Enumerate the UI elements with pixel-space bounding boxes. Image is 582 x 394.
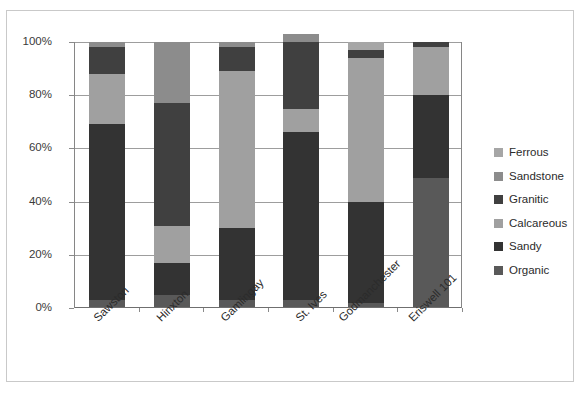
bar-segment-sandstone[interactable]	[219, 42, 255, 47]
y-axis-tick-label: 40%	[6, 196, 52, 208]
bar-slot	[204, 42, 269, 308]
legend-item[interactable]: Sandstone	[494, 165, 580, 189]
stacked-bar[interactable]	[219, 42, 255, 308]
stacked-bar[interactable]	[154, 42, 190, 308]
legend-swatch-icon	[494, 266, 503, 275]
bar-segment-sandstone[interactable]	[154, 42, 190, 103]
bar-segment-sandstone[interactable]	[89, 42, 125, 47]
bar-slot	[75, 42, 140, 308]
bar-segment-sandy[interactable]	[89, 124, 125, 300]
bar-segment-calcareous[interactable]	[89, 74, 125, 125]
y-axis-tick-label: 20%	[6, 249, 52, 261]
bar-slot	[140, 42, 205, 308]
legend-label: Organic	[509, 265, 549, 277]
bar-segment-calcareous[interactable]	[348, 58, 384, 202]
bar-segment-granitic[interactable]	[154, 103, 190, 225]
bar-slot	[398, 42, 463, 308]
legend-item[interactable]: Calcareous	[494, 212, 580, 236]
plot-area	[74, 42, 462, 308]
y-axis-tick-label: 100%	[6, 36, 52, 48]
chart-frame: 0%20%40%60%80%100% SawstonHinxtonGamling…	[6, 10, 574, 382]
legend-label: Sandy	[509, 241, 542, 253]
legend-item[interactable]: Organic	[494, 259, 580, 283]
x-axis-tick-mark	[203, 308, 204, 312]
legend-swatch-icon	[494, 242, 503, 251]
legend-swatch-icon	[494, 219, 503, 228]
legend-swatch-icon	[494, 172, 503, 181]
stacked-bar[interactable]	[89, 42, 125, 308]
bar-segment-granitic[interactable]	[89, 47, 125, 74]
bar-segment-granitic[interactable]	[283, 42, 319, 109]
bar-segment-ferrous[interactable]	[348, 42, 384, 50]
x-axis-tick-mark	[268, 308, 269, 312]
y-axis-tick-mark	[69, 308, 74, 309]
legend-label: Granitic	[509, 194, 549, 206]
legend-swatch-icon	[494, 195, 503, 204]
bar-slot	[269, 42, 334, 308]
stacked-bar[interactable]	[413, 42, 449, 308]
legend-swatch-icon	[494, 148, 503, 157]
bar-segment-sandy[interactable]	[413, 95, 449, 177]
legend-item[interactable]: Sandy	[494, 235, 580, 259]
bar-segment-calcareous[interactable]	[219, 71, 255, 228]
stacked-bar[interactable]	[348, 42, 384, 308]
x-axis-tick-mark	[397, 308, 398, 312]
bar-segment-granitic[interactable]	[348, 50, 384, 58]
bar-segment-granitic[interactable]	[219, 47, 255, 71]
x-axis-tick-mark	[333, 308, 334, 312]
legend-label: Ferrous	[509, 147, 549, 159]
bar-segment-sandy[interactable]	[283, 132, 319, 300]
x-axis-baseline	[75, 307, 461, 308]
stacked-bar[interactable]	[283, 42, 319, 308]
legend-label: Sandstone	[509, 171, 564, 183]
x-axis-tick-mark	[462, 308, 463, 312]
bar-segment-calcareous[interactable]	[154, 226, 190, 263]
legend-item[interactable]: Granitic	[494, 188, 580, 212]
y-axis-tick-label: 60%	[6, 142, 52, 154]
bar-segment-sandstone[interactable]	[283, 34, 319, 42]
bar-segment-granitic[interactable]	[413, 42, 449, 47]
y-axis-tick-label: 80%	[6, 89, 52, 101]
bar-segment-calcareous[interactable]	[413, 47, 449, 95]
x-axis-tick-mark	[139, 308, 140, 312]
bar-segment-calcareous[interactable]	[283, 109, 319, 133]
y-axis-tick-label: 0%	[6, 302, 52, 314]
legend-label: Calcareous	[509, 218, 567, 230]
legend: FerrousSandstoneGraniticCalcareousSandyO…	[494, 141, 580, 282]
legend-item[interactable]: Ferrous	[494, 141, 580, 165]
